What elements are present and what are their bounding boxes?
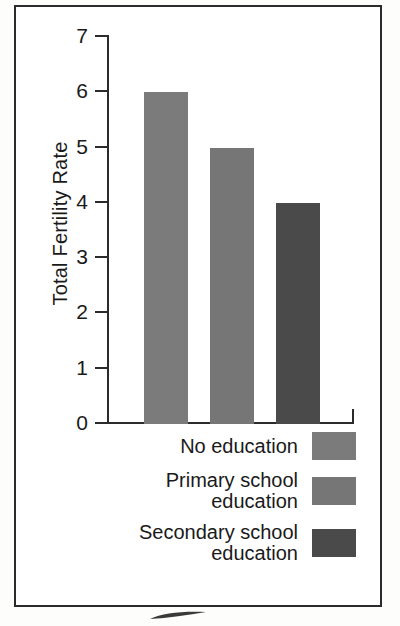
y-axis-tick-mark xyxy=(95,311,108,313)
y-axis-tick-mark xyxy=(95,367,108,369)
y-axis-line xyxy=(107,35,109,424)
y-axis-tick-label: 7 xyxy=(62,25,88,46)
y-axis-tick-mark xyxy=(95,146,108,148)
bar xyxy=(144,92,188,424)
legend-item: Secondary school education xyxy=(56,522,356,564)
scanned-page: Total Fertility Rate 76543210 No educati… xyxy=(0,0,400,626)
legend-item-label: Secondary school education xyxy=(139,522,312,564)
y-axis-tick-label: 2 xyxy=(62,301,88,322)
bar xyxy=(210,148,254,424)
legend-item: Primary school education xyxy=(56,470,356,512)
y-axis-tick-label: 5 xyxy=(62,136,88,157)
legend-item-swatch xyxy=(312,529,356,557)
y-axis-tick-label: 6 xyxy=(62,80,88,101)
legend-item-label: Primary school education xyxy=(166,470,312,512)
legend-item-label: No education xyxy=(180,436,312,457)
y-axis-tick-label: 1 xyxy=(62,357,88,378)
legend-item-swatch xyxy=(312,432,356,460)
x-axis-end-tick xyxy=(352,409,354,424)
y-axis-tick-label: 3 xyxy=(62,246,88,267)
y-axis-tick-label: 0 xyxy=(62,412,88,433)
y-axis-tick-mark xyxy=(95,35,108,37)
legend-item: No education xyxy=(56,432,356,460)
chart-frame: Total Fertility Rate 76543210 No educati… xyxy=(14,5,382,607)
y-axis-tick-mark xyxy=(95,256,108,258)
legend-item-swatch xyxy=(312,477,356,505)
y-axis-tick-mark xyxy=(95,90,108,92)
chart-legend: No educationPrimary school educationSeco… xyxy=(56,432,356,574)
y-axis-tick-label: 4 xyxy=(62,191,88,212)
scan-artifact xyxy=(148,611,208,621)
y-axis-tick-mark xyxy=(95,201,108,203)
bar xyxy=(276,203,320,424)
y-axis-tick-mark xyxy=(95,422,108,424)
